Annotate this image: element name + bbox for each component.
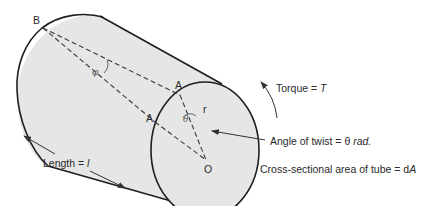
torque-prefix: Torque = bbox=[276, 82, 320, 94]
torque-arrow bbox=[261, 82, 277, 118]
length-label: Length = l bbox=[43, 157, 90, 169]
point-A-upper-label: A bbox=[175, 79, 182, 91]
point-O-label: O bbox=[204, 163, 212, 175]
twist-unit: rad. bbox=[353, 135, 371, 147]
point-B-label: B bbox=[33, 14, 40, 26]
theta-symbol: θ bbox=[183, 114, 189, 124]
length-prefix: Length = bbox=[43, 157, 87, 169]
twist-prefix: Angle of twist = θ bbox=[270, 135, 353, 147]
area-prefix: Cross-sectional area of tube = d bbox=[260, 163, 409, 175]
radius-label: r bbox=[203, 103, 207, 115]
front-end-circle bbox=[151, 82, 259, 206]
torsion-tube-diagram: B A A O φ θ r Torque = T Angle of twist … bbox=[0, 0, 434, 206]
point-A-lower-label: A bbox=[146, 112, 153, 124]
area-symbol: A bbox=[408, 163, 416, 175]
torque-symbol: T bbox=[320, 82, 328, 94]
torque-label: Torque = T bbox=[276, 82, 328, 94]
twist-label: Angle of twist = θ rad. bbox=[270, 135, 371, 147]
area-label: Cross-sectional area of tube = dA bbox=[260, 163, 416, 175]
phi-symbol: φ bbox=[92, 67, 99, 77]
